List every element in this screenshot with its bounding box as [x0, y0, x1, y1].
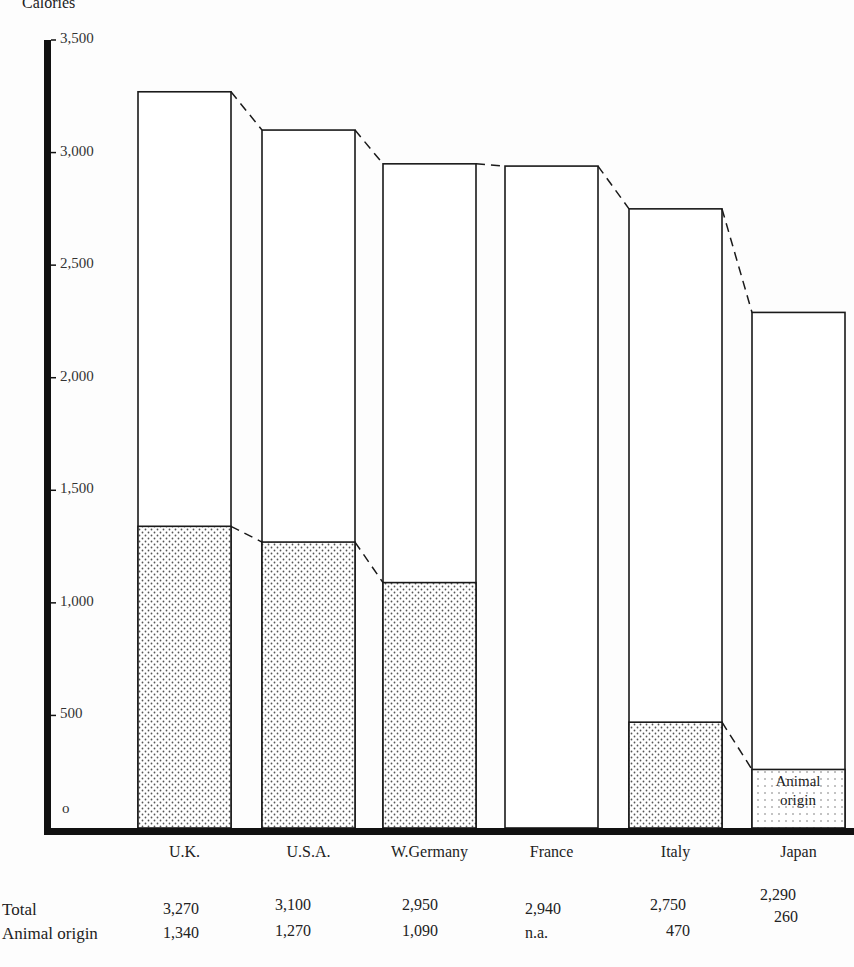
connector-total	[355, 130, 383, 164]
table-value-total: 2,290	[760, 886, 796, 904]
x-category-label: Japan	[739, 843, 854, 861]
x-category-label: Italy	[616, 843, 736, 861]
bar-animal-origin	[629, 722, 722, 828]
table-value-animal-origin: 1,270	[275, 922, 311, 940]
table-value-total: 3,100	[275, 896, 311, 914]
bar-animal-origin	[262, 542, 355, 828]
y-tick-label: 1,500	[60, 480, 94, 497]
bars-group	[138, 92, 845, 828]
x-category-label: W.Germany	[370, 843, 490, 861]
y-tick-label: 3,000	[60, 143, 94, 160]
x-category-label: U.S.A.	[249, 843, 369, 861]
bar-animal-origin	[383, 583, 476, 828]
connector-animal	[355, 542, 383, 583]
table-value-animal-origin: 260	[774, 908, 798, 926]
connector-total	[722, 209, 752, 313]
y-axis-title: Calories	[22, 0, 75, 12]
x-axis-line	[44, 828, 854, 835]
connector-total	[476, 164, 505, 166]
connector-animal	[231, 526, 262, 542]
connector-total	[231, 92, 262, 130]
table-value-animal-origin: n.a.	[525, 924, 548, 942]
bar-total	[505, 166, 598, 828]
annotation-line-2: origin	[752, 791, 844, 810]
table-value-total: 2,950	[402, 896, 438, 914]
row-label-total: Total	[2, 900, 37, 920]
connector-animal	[722, 722, 752, 769]
y-tick-label: 3,500	[60, 30, 94, 47]
annotation-line-1: Animal	[752, 772, 844, 791]
annotation-animal-origin: Animal origin	[752, 772, 844, 810]
y-tick-label: 2,000	[60, 368, 94, 385]
table-value-animal-origin: 1,090	[402, 922, 438, 940]
bar-total	[752, 312, 845, 828]
bar-animal-origin	[138, 526, 231, 828]
table-value-animal-origin: 1,340	[163, 924, 199, 942]
y-tick-label: o	[62, 800, 70, 817]
row-label-animal-origin: Animal origin	[2, 924, 98, 944]
y-axis-line	[44, 40, 51, 835]
y-tick-label: 1,000	[60, 593, 94, 610]
table-value-total: 2,750	[650, 896, 686, 914]
table-value-total: 3,270	[163, 900, 199, 918]
y-tick-label: 500	[60, 705, 83, 722]
connector-total	[598, 166, 629, 209]
x-category-label: U.K.	[125, 843, 245, 861]
bar-chart	[0, 0, 854, 967]
table-value-animal-origin: 470	[666, 922, 690, 940]
table-value-total: 2,940	[525, 900, 561, 918]
y-tick-label: 2,500	[60, 255, 94, 272]
x-category-label: France	[492, 843, 612, 861]
